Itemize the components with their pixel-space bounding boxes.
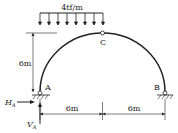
pin-support-a-icon — [32, 91, 50, 99]
point-a-label: A — [44, 83, 51, 92]
left-span-label: 6m — [66, 104, 79, 113]
load-label: 4tf/m — [61, 3, 83, 12]
hinge-c-icon — [101, 31, 105, 35]
reaction-va-arrow: VA — [27, 102, 42, 130]
point-c-label: C — [100, 38, 106, 47]
height-label: 6m — [19, 59, 32, 68]
span-dimension: 6m 6m — [40, 99, 165, 120]
va-label: VA — [27, 120, 37, 130]
arch-diagram: 4tf/m C A B 6m — [0, 0, 178, 133]
pin-support-b-icon — [157, 91, 173, 99]
distributed-load: 4tf/m — [39, 3, 105, 25]
right-span-label: 6m — [128, 104, 141, 113]
height-dimension: 6m — [19, 33, 57, 92]
reaction-ha-arrow: HA — [4, 98, 35, 108]
ha-label: HA — [4, 98, 16, 108]
point-b-label: B — [154, 83, 160, 92]
